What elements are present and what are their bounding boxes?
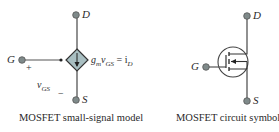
gate-terminal-icon: [19, 57, 26, 64]
gate-terminal-icon: [203, 64, 210, 71]
caption-small-signal-model: MOSFET small-signal model: [19, 112, 143, 123]
small-signal-model: [19, 12, 88, 104]
source-label: S: [253, 94, 259, 106]
gate-label: G: [7, 53, 15, 65]
circuit-symbol: [203, 13, 251, 105]
source-label: S: [82, 93, 88, 105]
body-arrow-icon: [231, 59, 236, 64]
source-terminal-icon: [73, 97, 80, 104]
drain-terminal-icon: [244, 13, 251, 20]
caption-circuit-symbol: MOSFET circuit symbol: [176, 112, 279, 123]
vgs-label: vGS: [37, 79, 50, 93]
vgs-plus-sign: +: [26, 62, 32, 73]
vgs-minus-sign: −: [58, 88, 64, 99]
drain-terminal-icon: [73, 12, 80, 19]
drain-label: D: [82, 8, 90, 20]
dependent-source-equation: gmvGS = iD: [91, 54, 133, 68]
gate-end-dot: [59, 58, 62, 61]
gate-label: G: [191, 60, 199, 72]
source-terminal-icon: [244, 98, 251, 105]
drain-label: D: [253, 9, 261, 21]
